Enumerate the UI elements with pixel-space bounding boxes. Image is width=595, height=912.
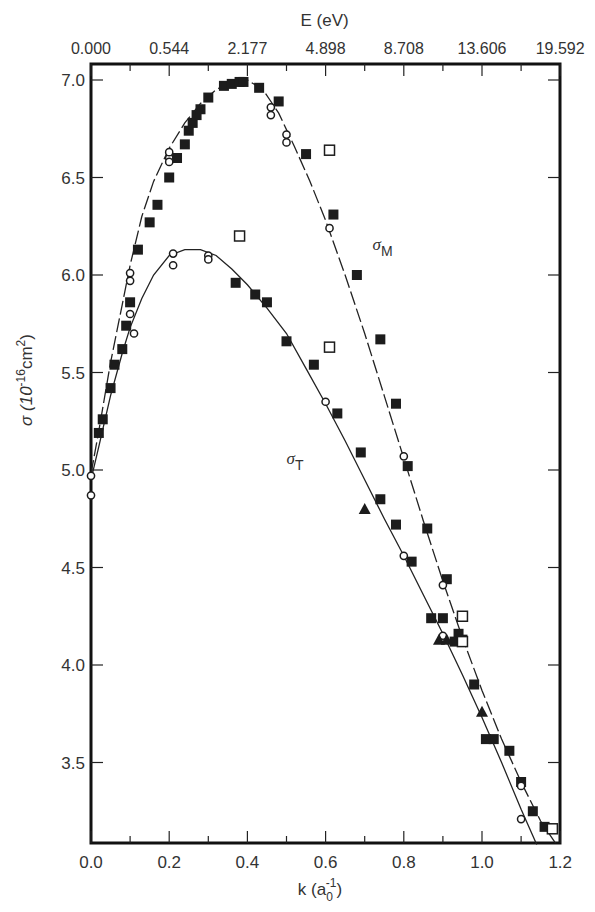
filled-square-marker bbox=[98, 414, 108, 424]
top-axis-title: E (eV) bbox=[301, 11, 349, 30]
filled-square-marker bbox=[254, 83, 264, 93]
filled-square-marker bbox=[145, 217, 155, 227]
fit-curves bbox=[91, 80, 556, 844]
filled-square-marker bbox=[352, 270, 362, 280]
filled-square-marker bbox=[121, 321, 131, 331]
open-circle-marker bbox=[170, 262, 177, 269]
y-axis-title: σ (10-16cm2) bbox=[14, 334, 36, 426]
open-square-marker bbox=[235, 231, 245, 241]
y-tick-label: 3.5 bbox=[61, 754, 85, 773]
open-circle-marker bbox=[87, 492, 94, 499]
top-tick-label: 13.606 bbox=[458, 40, 507, 57]
filled-square-marker bbox=[152, 200, 162, 210]
filled-square-marker bbox=[375, 334, 385, 344]
filled-square-marker bbox=[528, 806, 538, 816]
top-tick-label: 8.708 bbox=[384, 40, 424, 57]
open-circle-marker bbox=[130, 330, 137, 337]
open-circle-marker bbox=[400, 453, 407, 460]
y-tick-label: 7.0 bbox=[61, 71, 85, 90]
x-axis-title: k (a0-1) bbox=[298, 876, 342, 904]
filled-square-marker bbox=[250, 290, 260, 300]
filled-square-marker bbox=[356, 447, 366, 457]
top-tick-label: 0.000 bbox=[71, 40, 111, 57]
sigma-t-label: σT bbox=[287, 449, 304, 473]
filled-square-marker bbox=[328, 210, 338, 220]
filled-square-marker bbox=[203, 93, 213, 103]
x-tick-label: 0.2 bbox=[157, 853, 181, 872]
axis-labels: 0.00.20.40.60.81.01.23.54.04.55.05.56.06… bbox=[14, 11, 585, 904]
top-tick-label: 0.544 bbox=[149, 40, 189, 57]
top-tick-label: 2.177 bbox=[227, 40, 267, 57]
data-markers bbox=[87, 77, 557, 834]
open-circle-marker bbox=[267, 104, 274, 111]
y-tick-label: 6.5 bbox=[61, 169, 85, 188]
filled-square-marker bbox=[94, 428, 104, 438]
filled-square-marker bbox=[133, 245, 143, 255]
plot-frame bbox=[91, 64, 560, 843]
x-tick-label: 0.4 bbox=[236, 853, 260, 872]
open-square-marker bbox=[325, 342, 335, 352]
y-tick-label: 5.0 bbox=[61, 461, 85, 480]
filled-triangle-marker bbox=[359, 503, 371, 514]
filled-square-marker bbox=[403, 461, 413, 471]
x-tick-label: 1.2 bbox=[548, 853, 572, 872]
x-tick-label: 0.0 bbox=[79, 853, 103, 872]
filled-square-marker bbox=[481, 734, 491, 744]
x-tick-label: 0.8 bbox=[392, 853, 416, 872]
filled-square-marker bbox=[262, 297, 272, 307]
filled-square-marker bbox=[109, 360, 119, 370]
open-circle-marker bbox=[518, 815, 525, 822]
filled-square-marker bbox=[332, 408, 342, 418]
filled-square-marker bbox=[309, 360, 319, 370]
sigma-t-curve bbox=[91, 250, 537, 845]
x-tick-label: 0.6 bbox=[314, 853, 338, 872]
filled-square-marker bbox=[407, 557, 417, 567]
y-tick-label: 4.5 bbox=[61, 559, 85, 578]
open-circle-marker bbox=[439, 581, 446, 588]
open-circle-marker bbox=[205, 256, 212, 263]
sigma-m-label: σM bbox=[373, 235, 393, 259]
plot-border bbox=[91, 64, 560, 843]
filled-square-marker bbox=[375, 494, 385, 504]
y-tick-label: 6.0 bbox=[61, 266, 85, 285]
y-tick-label: 5.5 bbox=[61, 364, 85, 383]
open-square-marker bbox=[547, 824, 557, 834]
filled-square-marker bbox=[164, 173, 174, 183]
filled-square-marker bbox=[426, 613, 436, 623]
filled-square-marker bbox=[391, 520, 401, 530]
x-tick-label: 1.0 bbox=[470, 853, 494, 872]
filled-square-marker bbox=[125, 297, 135, 307]
cross-section-chart: 0.00.20.40.60.81.01.23.54.04.55.05.56.06… bbox=[0, 0, 595, 912]
top-tick-label: 4.898 bbox=[306, 40, 346, 57]
open-circle-marker bbox=[518, 782, 525, 789]
open-circle-marker bbox=[322, 398, 329, 405]
filled-square-marker bbox=[301, 149, 311, 159]
sigma-m-curve bbox=[91, 80, 556, 844]
filled-square-marker bbox=[504, 746, 514, 756]
y-tick-label: 4.0 bbox=[61, 656, 85, 675]
open-circle-marker bbox=[166, 149, 173, 156]
open-square-marker bbox=[325, 145, 335, 155]
filled-square-marker bbox=[117, 344, 127, 354]
open-circle-marker bbox=[166, 158, 173, 165]
open-circle-marker bbox=[283, 131, 290, 138]
open-square-marker bbox=[457, 611, 467, 621]
filled-square-marker bbox=[106, 383, 116, 393]
filled-square-marker bbox=[391, 399, 401, 409]
open-circle-marker bbox=[87, 472, 94, 479]
filled-square-marker bbox=[438, 613, 448, 623]
filled-square-marker bbox=[422, 524, 432, 534]
open-circle-marker bbox=[326, 225, 333, 232]
filled-square-marker bbox=[238, 77, 248, 87]
open-square-marker bbox=[457, 637, 467, 647]
open-circle-marker bbox=[170, 250, 177, 257]
open-circle-marker bbox=[400, 552, 407, 559]
open-circle-marker bbox=[127, 277, 134, 284]
open-circle-marker bbox=[127, 310, 134, 317]
open-circle-marker bbox=[283, 139, 290, 146]
filled-square-marker bbox=[195, 104, 205, 114]
filled-square-marker bbox=[180, 139, 190, 149]
filled-square-marker bbox=[231, 278, 241, 288]
filled-square-marker bbox=[469, 680, 479, 690]
open-circle-marker bbox=[267, 112, 274, 119]
